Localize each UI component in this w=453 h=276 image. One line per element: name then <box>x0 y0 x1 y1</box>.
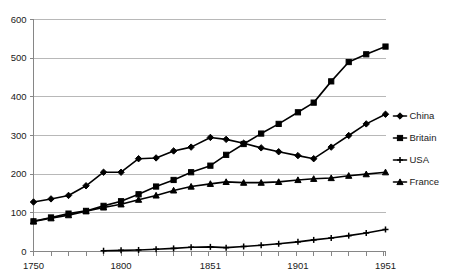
y-axis-tick-label: 300 <box>11 130 27 141</box>
data-point-britain <box>171 177 176 182</box>
legend-item-britain[interactable]: Britain <box>394 132 437 143</box>
legend-label-china: China <box>410 110 436 121</box>
data-point-britain <box>346 59 351 64</box>
data-point-usa <box>328 235 334 241</box>
data-point-china <box>48 196 54 202</box>
data-point-usa <box>311 237 317 243</box>
series-line-britain <box>34 47 386 222</box>
y-axis-labels: 0100200300400500600 <box>11 14 27 257</box>
data-point-usa <box>258 242 264 248</box>
data-point-britain <box>383 44 388 49</box>
data-point-usa <box>241 243 247 249</box>
legend-item-china[interactable]: China <box>394 110 436 121</box>
data-point-usa <box>363 230 369 236</box>
data-point-usa <box>136 247 142 253</box>
x-axis-tick-label: 1901 <box>287 260 308 271</box>
data-point-britain <box>295 110 300 115</box>
chart-container: 010020030040050060017501800185119011951C… <box>0 0 453 276</box>
data-point-china <box>258 145 264 151</box>
series-china <box>30 111 388 205</box>
data-point-usa <box>118 247 124 253</box>
data-point-china <box>188 144 194 150</box>
data-point-usa <box>295 239 301 245</box>
data-point-usa <box>207 244 213 250</box>
x-axis-tick-label: 1851 <box>200 260 221 271</box>
data-point-usa <box>188 244 194 250</box>
legend-label-britain: Britain <box>410 132 437 143</box>
data-point-china <box>170 148 176 154</box>
x-axis-tick-label: 1800 <box>110 260 131 271</box>
data-point-britain <box>311 100 316 105</box>
data-point-china <box>223 136 229 142</box>
data-point-britain <box>329 79 334 84</box>
data-point-britain <box>189 170 194 175</box>
x-axis-tick-label: 1951 <box>375 260 396 271</box>
data-point-usa <box>346 233 352 239</box>
data-point-britain <box>224 152 229 157</box>
series-britain <box>31 44 388 224</box>
data-point-usa <box>171 245 177 251</box>
legend-marker-china <box>397 113 403 119</box>
data-point-britain <box>364 52 369 57</box>
line-chart: 010020030040050060017501800185119011951C… <box>0 0 453 276</box>
series-line-usa <box>104 229 386 250</box>
series-usa <box>101 226 389 253</box>
x-axis-tick-label: 1750 <box>23 260 44 271</box>
legend-marker-usa <box>397 157 403 163</box>
data-point-china <box>65 192 71 198</box>
data-point-britain <box>276 121 281 126</box>
series-france <box>30 169 388 224</box>
legend-label-france: France <box>410 176 440 187</box>
data-point-usa <box>101 248 107 254</box>
x-axis-labels: 17501800185119011951 <box>23 260 396 271</box>
data-point-china <box>30 199 36 205</box>
data-point-china <box>275 149 281 155</box>
y-axis-tick-label: 400 <box>11 91 27 102</box>
data-point-china <box>382 111 388 117</box>
y-axis-tick-label: 200 <box>11 168 27 179</box>
data-point-britain <box>208 163 213 168</box>
data-point-britain <box>153 184 158 189</box>
legend-item-usa[interactable]: USA <box>394 154 430 165</box>
data-point-usa <box>223 245 229 251</box>
legend: ChinaBritainUSAFrance <box>394 110 440 187</box>
y-axis-tick-label: 100 <box>11 207 27 218</box>
y-axis-tick-label: 500 <box>11 52 27 63</box>
data-point-usa <box>383 226 389 232</box>
legend-marker-britain <box>397 135 402 140</box>
data-point-britain <box>241 141 246 146</box>
data-point-china <box>153 155 159 161</box>
data-point-usa <box>276 241 282 247</box>
legend-label-usa: USA <box>410 154 430 165</box>
data-point-china <box>295 152 301 158</box>
y-axis-tick-label: 0 <box>21 246 26 257</box>
legend-item-france[interactable]: France <box>394 176 440 187</box>
y-axis-tick-label: 600 <box>11 14 27 25</box>
data-point-britain <box>259 131 264 136</box>
